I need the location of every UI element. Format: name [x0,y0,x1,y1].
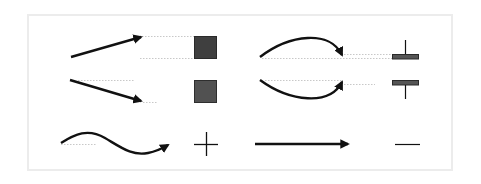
arc-down-arrow-glyph [260,80,375,98]
bar-lower-stem-icon [393,81,419,100]
wave-arrow-glyph [61,133,168,154]
diagram-canvas [0,0,481,184]
arc-up-arrow-icon [260,38,342,57]
arc-down-arrow-icon [260,80,342,98]
dark-square-icon [195,37,217,59]
bar-upper-stem-icon [393,40,419,59]
arc-up-arrow-glyph [260,38,392,59]
wave-arrow-icon [61,133,168,154]
falling-arrow-glyph [70,80,158,103]
rising-arrow-glyph [71,37,194,59]
plus-icon [194,132,218,156]
medium-square-icon [195,81,217,103]
arrow-up-right-icon [71,37,141,57]
arrow-down-right-icon [70,80,141,101]
